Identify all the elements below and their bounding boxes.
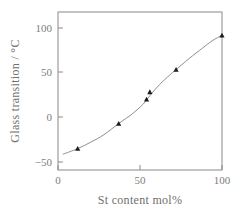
chart-container: 100 50 0 −50 0 50 100 St content mol% Gl… xyxy=(0,0,242,213)
x-tick-label-50: 50 xyxy=(135,174,147,186)
x-axis-title: St content mol% xyxy=(98,193,183,207)
glass-transition-scatter-chart: 100 50 0 −50 0 50 100 St content mol% Gl… xyxy=(0,0,242,213)
y-tick-label-100: 100 xyxy=(36,22,53,34)
x-tick-label-100: 100 xyxy=(214,174,231,186)
x-tick-label-0: 0 xyxy=(55,174,61,186)
y-tick-label-minus50: −50 xyxy=(35,156,53,168)
y-tick-label-0: 0 xyxy=(47,111,53,123)
y-axis-title: Glass transition / °C xyxy=(8,39,22,142)
y-tick-label-50: 50 xyxy=(41,66,53,78)
